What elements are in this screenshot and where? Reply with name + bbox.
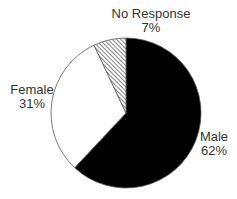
label-male: Male 62% bbox=[194, 130, 234, 158]
label-female: Female 31% bbox=[6, 83, 58, 111]
label-male-name: Male bbox=[194, 130, 234, 144]
label-no-response: No Response 7% bbox=[96, 7, 206, 35]
label-no-response-name: No Response bbox=[96, 7, 206, 21]
label-female-name: Female bbox=[6, 83, 58, 97]
label-no-response-pct: 7% bbox=[96, 21, 206, 35]
pie-slices bbox=[51, 38, 201, 188]
label-male-pct: 62% bbox=[194, 144, 234, 158]
label-female-pct: 31% bbox=[6, 97, 58, 111]
